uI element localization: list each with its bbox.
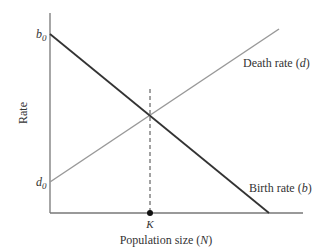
b0-label: b0 xyxy=(36,27,47,43)
birth-rate-line xyxy=(50,34,269,213)
k-point xyxy=(147,210,153,216)
death-rate-label: Death rate (d) xyxy=(243,56,310,70)
k-label: K xyxy=(145,218,154,230)
birth-rate-label: Birth rate (b) xyxy=(249,181,312,195)
y-axis-label: Rate xyxy=(16,102,30,124)
birth-death-rate-diagram: b0 d0 Rate K Population size (N) Death r… xyxy=(0,0,329,249)
x-axis-label: Population size (N) xyxy=(120,233,213,247)
d0-label: d0 xyxy=(36,175,47,191)
death-rate-line xyxy=(50,29,279,182)
